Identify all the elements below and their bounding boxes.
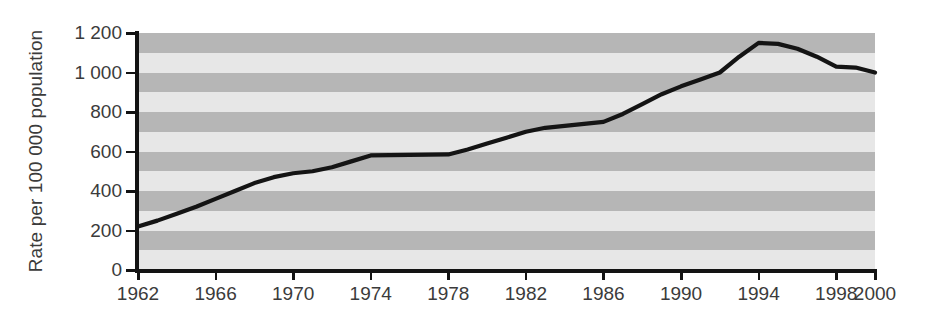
y-axis-tick-label: 600 — [36, 141, 122, 163]
x-axis-tick-label: 1978 — [427, 283, 469, 305]
data-series-line — [138, 33, 875, 270]
y-axis-tick-labels: 02004006008001 0001 200 — [36, 0, 122, 317]
rate-per-100000-line-chart: Rate per 100 000 population 020040060080… — [0, 0, 937, 317]
y-axis-tick-mark — [126, 72, 136, 75]
x-axis-tick-label: 1990 — [660, 283, 702, 305]
x-axis-tick-mark — [525, 270, 528, 280]
y-axis-tick-mark — [126, 32, 136, 35]
series-polyline — [138, 43, 875, 227]
x-axis-tick-mark — [137, 270, 140, 280]
x-axis-tick-mark — [447, 270, 450, 280]
x-axis-tick-label: 1974 — [350, 283, 392, 305]
x-axis-tick-label: 1994 — [737, 283, 779, 305]
y-axis-tick-mark — [126, 269, 136, 272]
x-axis-tick-label: 1962 — [117, 283, 159, 305]
y-axis-tick-mark — [126, 151, 136, 154]
x-axis-tick-mark — [370, 270, 373, 280]
x-axis-tick-mark — [215, 270, 218, 280]
x-axis-tick-label: 1966 — [194, 283, 236, 305]
x-axis-tick-mark — [292, 270, 295, 280]
y-axis-tick-label: 400 — [36, 180, 122, 202]
x-axis-tick-mark — [680, 270, 683, 280]
y-axis-tick-mark — [126, 190, 136, 193]
x-axis-tick-mark — [602, 270, 605, 280]
y-axis-tick-label: 200 — [36, 220, 122, 242]
x-axis-tick-label: 1986 — [582, 283, 624, 305]
y-axis-tick-label: 800 — [36, 101, 122, 123]
y-axis-tick-mark — [126, 230, 136, 233]
x-axis-tick-mark — [758, 270, 761, 280]
x-axis-tick-label: 1998 — [815, 283, 857, 305]
y-axis-tick-label: 0 — [36, 259, 122, 281]
x-axis-line — [135, 269, 877, 273]
x-axis-end-tick — [874, 270, 877, 280]
x-axis-tick-label: 1982 — [505, 283, 547, 305]
x-axis-tick-label: 2000 — [854, 283, 896, 305]
x-axis-tick-label: 1970 — [272, 283, 314, 305]
y-axis-tick-label: 1 200 — [36, 22, 122, 44]
y-axis-tick-mark — [126, 111, 136, 114]
x-axis-tick-mark — [835, 270, 838, 280]
y-axis-tick-label: 1 000 — [36, 62, 122, 84]
